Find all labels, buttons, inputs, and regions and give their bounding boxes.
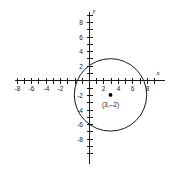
center-point-marker (109, 93, 113, 97)
y-tick-label: -2 (77, 92, 83, 99)
y-axis-label: y (91, 7, 96, 15)
coordinate-plane-figure: -8 -6 -4 -2 2 4 6 8 8 6 4 2 -2 -4 -6 -8 … (0, 0, 180, 179)
y-tick-label: 2 (79, 63, 83, 70)
y-tick-label: -6 (77, 121, 83, 128)
center-coordinate-label: (3,–2) (102, 101, 119, 109)
graph-canvas: -8 -6 -4 -2 2 4 6 8 8 6 4 2 -2 -4 -6 -8 … (0, 0, 180, 179)
x-tick-label: 6 (131, 85, 135, 92)
x-tick-label: 4 (117, 85, 121, 92)
y-tick-label: -8 (77, 136, 83, 143)
x-tick-label: -8 (15, 85, 21, 92)
axes-group (15, 12, 165, 164)
x-tick-label: 2 (102, 85, 106, 92)
y-tick-label: 6 (79, 34, 83, 41)
x-axis-label: x (155, 69, 160, 77)
x-axis-tick-labels: -8 -6 -4 -2 2 4 6 8 (15, 85, 150, 92)
x-tick-label: -6 (29, 85, 35, 92)
x-tick-label: -4 (44, 85, 50, 92)
y-tick-label: 4 (79, 48, 83, 55)
x-tick-label: -2 (58, 85, 64, 92)
y-tick-label: 8 (79, 19, 83, 26)
